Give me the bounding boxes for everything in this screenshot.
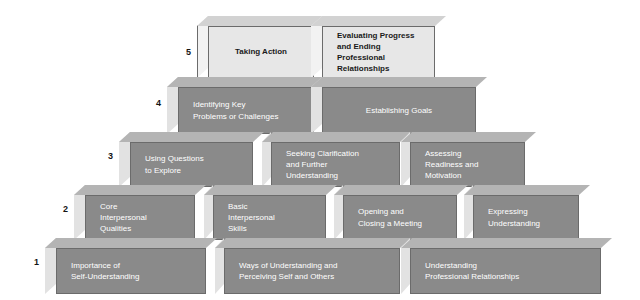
pyramid-diagram: 5 Taking Action Evaluating Progress and … <box>0 0 640 300</box>
block-label: Understanding Professional Relationships <box>411 260 600 282</box>
block-label: Core Interpersonal Qualities <box>86 201 194 234</box>
block-front-face: Taking Action <box>208 26 314 78</box>
block-label: Identifying Key Problems or Challenges <box>179 99 313 121</box>
block-label: Taking Action <box>209 46 313 57</box>
block-label: Seeking Clarification and Further Unders… <box>272 148 399 181</box>
block-front-face: Ways of Understanding and Perceiving Sel… <box>224 248 400 294</box>
block-front-face: Expressing Understanding <box>473 195 579 240</box>
block-front-face: Evaluating Progress and Ending Professio… <box>322 26 435 78</box>
block-front-face: Establishing Goals <box>322 87 476 134</box>
block-front-face: Understanding Professional Relationships <box>410 248 601 294</box>
block-front-face: Using Questions to Explore <box>130 142 253 187</box>
block-label: Expressing Understanding <box>474 206 578 228</box>
block-label: Assessing Readiness and Motivation <box>411 148 524 181</box>
block-front-face: Seeking Clarification and Further Unders… <box>271 142 400 187</box>
level-number-4: 4 <box>156 99 161 108</box>
level-number-3: 3 <box>108 152 113 161</box>
block-front-face: Identifying Key Problems or Challenges <box>178 87 314 134</box>
level-number-1: 1 <box>34 258 39 267</box>
block-front-face: Importance of Self-Understanding <box>56 248 206 294</box>
block-label: Evaluating Progress and Ending Professio… <box>323 30 434 74</box>
block-label: Basic Interpersonal Skills <box>214 201 325 234</box>
level-number-5: 5 <box>186 48 191 57</box>
block-label: Opening and Closing a Meeting <box>344 206 456 228</box>
block-front-face: Core Interpersonal Qualities <box>85 195 195 240</box>
block-front-face: Opening and Closing a Meeting <box>343 195 457 240</box>
block-front-face: Basic Interpersonal Skills <box>213 195 326 240</box>
block-label: Importance of Self-Understanding <box>57 260 205 282</box>
block-front-face: Assessing Readiness and Motivation <box>410 142 525 187</box>
block-label: Establishing Goals <box>323 105 475 116</box>
block-label: Ways of Understanding and Perceiving Sel… <box>225 260 399 282</box>
block-label: Using Questions to Explore <box>131 153 252 175</box>
level-number-2: 2 <box>63 205 68 214</box>
